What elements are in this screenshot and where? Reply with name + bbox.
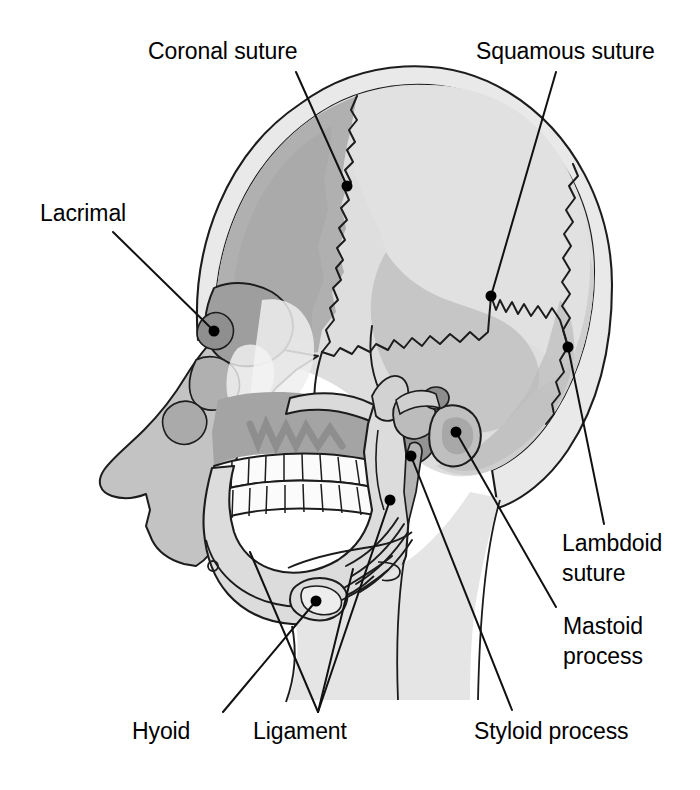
label-ligament: Ligament: [253, 716, 347, 746]
label-lacrimal: Lacrimal: [40, 198, 126, 228]
dot-lambdoid-suture: [563, 342, 574, 353]
label-hyoid: Hyoid: [132, 716, 190, 746]
dot-styloid-process: [406, 451, 417, 462]
dot-lacrimal: [209, 326, 220, 337]
dot-mastoid-process: [451, 427, 462, 438]
label-lambdoid-suture-line1: Lambdoid: [562, 528, 662, 558]
dot-hyoid: [311, 596, 322, 607]
label-lambdoid-suture-line2: suture: [562, 558, 625, 588]
label-squamous-suture: Squamous suture: [476, 36, 655, 66]
lower-teeth: [216, 480, 388, 520]
label-mastoid-process-line2: process: [563, 641, 643, 671]
label-coronal-suture: Coronal suture: [148, 36, 297, 66]
dot-coronal-suture: [342, 181, 353, 192]
dot-squamous-suture: [486, 291, 497, 302]
dot-ligament: [385, 495, 396, 506]
label-mastoid-process-line1: Mastoid: [563, 611, 643, 641]
skull-illustration: [0, 0, 700, 790]
label-styloid-process: Styloid process: [474, 716, 628, 746]
skull-diagram-figure: Coronal suture Squamous suture Lacrimal …: [0, 0, 700, 790]
